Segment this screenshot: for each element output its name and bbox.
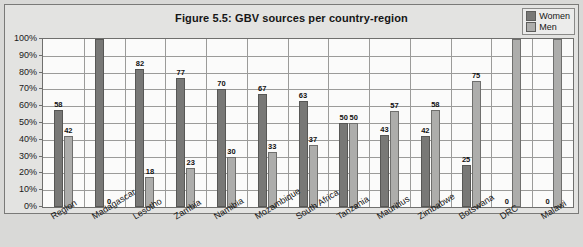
legend-swatch-women-icon	[526, 11, 536, 21]
y-axis-tick-label: 80%	[5, 68, 37, 77]
bar-region-women	[54, 110, 63, 207]
y-axis-tick-label: 100%	[5, 34, 37, 43]
category-separator	[491, 39, 492, 207]
data-label: 70	[212, 80, 231, 88]
bar-mauritius-men	[390, 111, 399, 207]
y-axis-tick-label: 60%	[5, 101, 37, 110]
bar-mauritius-women	[380, 135, 389, 207]
data-label: 67	[253, 85, 272, 93]
legend-entry-women: Women	[526, 11, 570, 21]
bar-botswana-men	[472, 81, 481, 207]
bar-zambia-women	[176, 78, 185, 207]
category-separator	[247, 39, 248, 207]
category-separator	[328, 39, 329, 207]
category-separator	[532, 39, 533, 207]
data-label: 58	[426, 101, 445, 109]
bar-malawi-men	[553, 39, 562, 207]
bar-drc-men	[512, 39, 521, 207]
category-separator	[125, 39, 126, 207]
bar-tanzania-men	[349, 123, 358, 207]
y-axis-tick-label: 40%	[5, 135, 37, 144]
data-label: 42	[59, 127, 78, 135]
category-separator	[288, 39, 289, 207]
bar-zimbabwe-men	[431, 110, 440, 207]
gridline	[43, 56, 573, 57]
data-label: 18	[140, 168, 159, 176]
bar-tanzania-women	[339, 123, 348, 207]
data-label: 23	[181, 159, 200, 167]
category-separator	[369, 39, 370, 207]
bar-region-men	[64, 136, 73, 207]
data-label: 37	[304, 136, 323, 144]
data-label: 30	[222, 148, 241, 156]
data-label: 77	[171, 69, 190, 77]
gridline	[43, 73, 573, 74]
data-label: 63	[294, 92, 313, 100]
y-axis-tick-label: 20%	[5, 168, 37, 177]
y-axis-tick-label: 0%	[5, 202, 37, 211]
data-label: 57	[385, 102, 404, 110]
legend-label-men: Men	[539, 22, 557, 32]
legend-swatch-men-icon	[526, 22, 536, 32]
bar-mozambique-women	[258, 94, 267, 207]
data-label: 75	[467, 72, 486, 80]
gridline	[43, 89, 573, 90]
category-separator	[84, 39, 85, 207]
category-separator	[206, 39, 207, 207]
bar-lesotho-women	[135, 69, 144, 207]
category-separator	[410, 39, 411, 207]
y-axis-tick-label: 90%	[5, 51, 37, 60]
category-separator	[165, 39, 166, 207]
gridline	[43, 106, 573, 107]
data-label: 82	[130, 60, 149, 68]
bar-zimbabwe-women	[421, 136, 430, 207]
data-label: 58	[49, 101, 68, 109]
legend-label-women: Women	[539, 11, 570, 21]
y-axis-tick-label: 70%	[5, 84, 37, 93]
bar-madagascar-women	[95, 39, 104, 207]
data-label: 33	[263, 143, 282, 151]
y-axis-tick-label: 10%	[5, 185, 37, 194]
figure-container: Figure 5.5: GBV sources per country-regi…	[4, 4, 579, 214]
category-separator	[451, 39, 452, 207]
legend-entry-men: Men	[526, 22, 570, 32]
y-axis-tick-label: 30%	[5, 152, 37, 161]
chart-title: Figure 5.5: GBV sources per country-regi…	[5, 12, 578, 24]
plot-area: 5842082187723703067336337505043574258257…	[42, 38, 574, 208]
gridline	[43, 123, 573, 124]
chart-legend: Women Men	[522, 8, 575, 35]
data-label: 50	[344, 114, 363, 122]
x-axis-labels: RegionMadagascarLesothoZambiaNamibiaMoza…	[5, 211, 578, 247]
bar-botswana-women	[462, 165, 471, 207]
y-axis-tick-label: 50%	[5, 118, 37, 127]
